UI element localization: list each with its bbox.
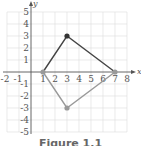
svg-text:-1: -1 xyxy=(20,79,29,89)
vertex-3-3 xyxy=(64,33,69,38)
svg-text:-2: -2 xyxy=(20,91,29,101)
coordinate-plane: x y -2 -1 1 2 3 4 5 6 7 8 5 4 3 2 1 -1 -… xyxy=(0,0,141,146)
svg-text:3: 3 xyxy=(23,31,29,41)
svg-text:2: 2 xyxy=(23,43,29,53)
figure-caption: Figure 1.1 xyxy=(0,137,141,146)
svg-text:4: 4 xyxy=(23,19,29,29)
svg-text:-2: -2 xyxy=(1,74,10,84)
svg-text:-3: -3 xyxy=(20,103,29,113)
svg-text:4: 4 xyxy=(76,74,82,84)
x-axis-label: x xyxy=(137,67,141,76)
svg-text:-5: -5 xyxy=(20,127,29,137)
svg-text:5: 5 xyxy=(88,74,94,84)
svg-text:7: 7 xyxy=(112,74,118,84)
svg-text:5: 5 xyxy=(23,7,29,17)
svg-text:2: 2 xyxy=(52,74,58,84)
vertex-7-0 xyxy=(112,69,117,74)
vertex-1-0 xyxy=(40,69,45,74)
y-axis-label: y xyxy=(32,0,38,8)
vertex-3-neg3 xyxy=(64,105,69,110)
x-axis-arrow-icon xyxy=(131,70,136,74)
svg-text:1: 1 xyxy=(23,55,29,65)
svg-text:3: 3 xyxy=(64,74,70,84)
svg-text:-4: -4 xyxy=(20,115,29,125)
svg-text:8: 8 xyxy=(124,74,130,84)
